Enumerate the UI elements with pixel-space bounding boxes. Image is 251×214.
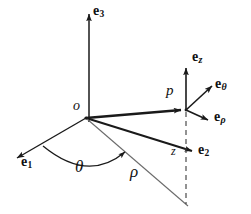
label-theta: θ: [75, 158, 83, 175]
label-origin: o: [73, 99, 80, 113]
label-ez-sub: z: [198, 54, 202, 65]
axis-e2-line: [86, 118, 192, 151]
origin-dot: [84, 116, 87, 119]
label-etheta-sub: θ: [221, 81, 226, 92]
label-point-p: p: [166, 83, 174, 98]
label-etheta: eθ: [215, 77, 227, 92]
label-e2-sub: 2: [204, 148, 209, 158]
label-ez: ez: [192, 50, 202, 65]
point-p-dot: [185, 109, 188, 112]
unit-vector-etheta: [186, 86, 212, 110]
diagram-canvas: [0, 0, 251, 214]
label-z: z: [171, 145, 176, 157]
cylindrical-coordinates-figure: e3 ez eθ eρ e1 e2 o p z θ ρ: [0, 0, 251, 214]
theta-angle-arc: [43, 146, 125, 166]
position-vector-op: [86, 110, 181, 118]
unit-vector-erho: [186, 110, 208, 120]
label-e3: e3: [93, 4, 104, 20]
label-e2: e2: [198, 143, 209, 159]
label-e1-sub: 1: [27, 160, 32, 170]
label-erho: eρ: [214, 110, 226, 125]
label-erho-sub: ρ: [220, 114, 225, 125]
label-e1: e1: [21, 155, 32, 171]
label-rho: ρ: [130, 163, 138, 180]
label-e3-sub: 3: [99, 9, 104, 19]
